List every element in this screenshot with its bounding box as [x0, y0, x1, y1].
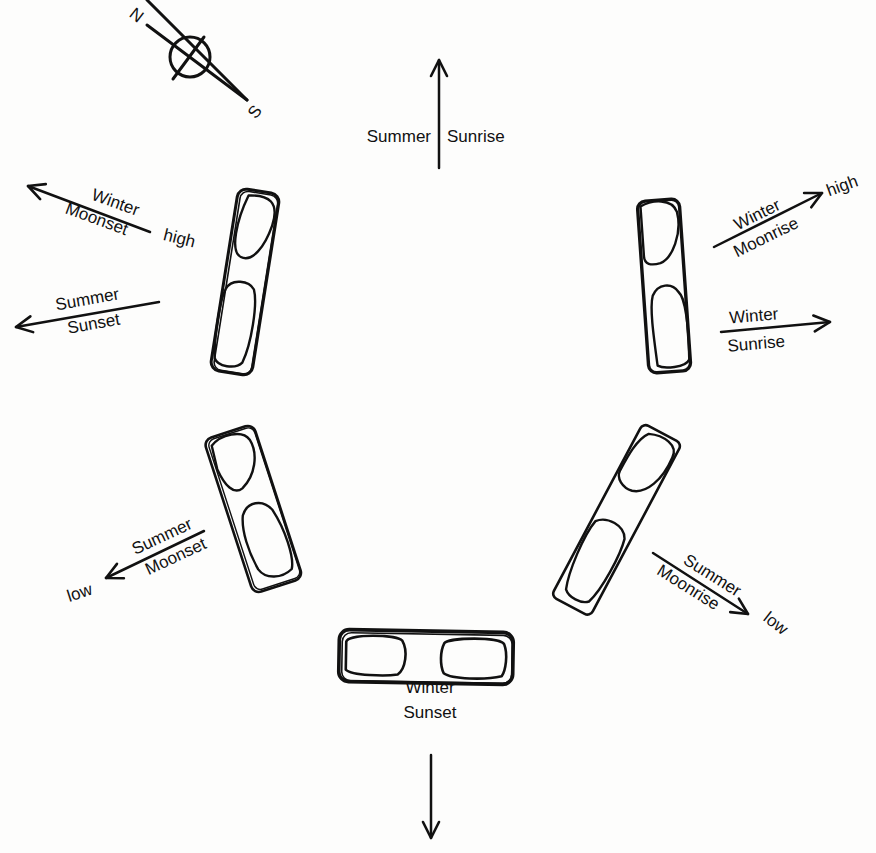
stone-alignment-diagram: N S Summer Sunrise Winter Moonset high S…	[0, 0, 876, 853]
winter-moonset-note: high	[162, 225, 198, 251]
summer-sunset-bottom-label: Sunset	[66, 310, 122, 338]
arrow-winter-sunset: Winter Sunset	[404, 678, 457, 838]
stone-south	[339, 629, 514, 684]
arrow-winter-sunrise: Winter Sunrise	[721, 304, 830, 356]
stone-northwest	[210, 188, 280, 376]
winter-moonrise-note: high	[824, 171, 861, 200]
winter-sunrise-bottom-label: Sunrise	[727, 332, 786, 356]
compass-south-label: S	[244, 101, 266, 122]
summer-sunrise-right-label: Sunrise	[447, 127, 505, 146]
arrow-summer-moonrise: Summer Moonrise low	[653, 541, 792, 639]
arrow-winter-moonset: Winter Moonset high	[28, 178, 197, 251]
arrow-summer-sunset: Summer Sunset	[16, 284, 159, 339]
summer-moonset-note: low	[65, 580, 96, 606]
compass-north-label: N	[126, 4, 147, 27]
stone-southwest	[204, 424, 304, 594]
stone-southeast	[551, 423, 682, 617]
winter-sunset-top-label: Winter	[405, 678, 454, 697]
winter-sunset-bottom-label: Sunset	[404, 703, 457, 722]
compass-icon: N S	[126, 0, 266, 122]
stone-northeast	[637, 199, 691, 374]
arrow-summer-sunrise: Summer Sunrise	[367, 60, 505, 168]
arrow-summer-moonset: Summer Moonset low	[65, 512, 210, 605]
compass-needle	[147, 0, 247, 100]
winter-sunrise-top-label: Winter	[728, 304, 779, 327]
summer-moonrise-note: low	[760, 608, 792, 639]
arrow-winter-moonrise: Winter Moonrise high	[714, 171, 860, 261]
summer-sunrise-left-label: Summer	[367, 127, 432, 146]
